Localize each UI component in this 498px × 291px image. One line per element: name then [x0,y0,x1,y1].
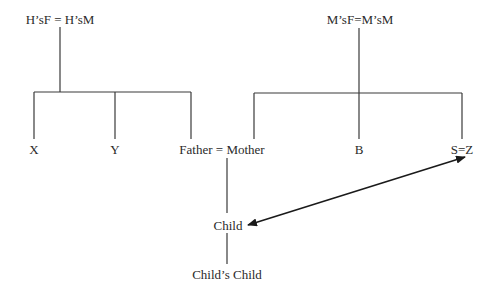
father-mother-label: Father = Mother [179,143,264,156]
x-label: X [29,143,38,156]
child-sz-double-arrow [248,157,465,225]
child-label: Child [214,219,243,232]
childs-child-label: Child’s Child [192,268,262,281]
y-label: Y [110,143,119,156]
h-parents-label: H’sF = H’sM [26,13,95,26]
m-parents-label: M’sF=M’sM [327,13,394,26]
s-z-label: S=Z [451,143,474,156]
b-label: B [355,143,364,156]
